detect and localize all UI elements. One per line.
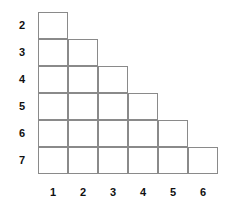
grid-cell (38, 147, 68, 174)
column-label-1: 1 (38, 187, 68, 198)
grid-cell (98, 66, 128, 93)
grid-cell (188, 147, 218, 174)
column-label-4: 4 (128, 187, 158, 198)
grid-cell (68, 93, 98, 120)
grid-cell (38, 120, 68, 147)
grid-cell (68, 120, 98, 147)
staircase-grid-figure: 234567 123456 (0, 0, 237, 214)
column-label-6: 6 (188, 187, 218, 198)
row-label-6: 6 (12, 128, 32, 139)
grid-cell (68, 39, 98, 66)
row-label-2: 2 (12, 20, 32, 31)
row-label-5: 5 (12, 101, 32, 112)
grid-cell (128, 93, 158, 120)
grid-cell (38, 66, 68, 93)
grid-cell (68, 147, 98, 174)
grid-cell (158, 147, 188, 174)
grid-cell (38, 12, 68, 39)
grid-cell (128, 147, 158, 174)
grid-cell (38, 39, 68, 66)
grid-cell (158, 120, 188, 147)
column-label-5: 5 (158, 187, 188, 198)
column-label-3: 3 (98, 187, 128, 198)
grid-cell (38, 93, 68, 120)
grid-cell (98, 93, 128, 120)
grid-cell (128, 120, 158, 147)
column-label-2: 2 (68, 187, 98, 198)
row-label-7: 7 (12, 155, 32, 166)
row-label-3: 3 (12, 47, 32, 58)
row-label-4: 4 (12, 74, 32, 85)
grid-cell (68, 66, 98, 93)
grid-cell (98, 120, 128, 147)
grid-cell (98, 147, 128, 174)
